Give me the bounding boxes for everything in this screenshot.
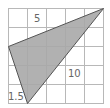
label-top-side: 5 xyxy=(34,13,40,24)
shaded-triangle xyxy=(9,9,104,104)
label-right-side: 10 xyxy=(68,68,81,79)
label-bottom-left: 1.5 xyxy=(8,91,24,102)
triangle-grid-diagram: 5 10 1.5 xyxy=(0,0,110,108)
